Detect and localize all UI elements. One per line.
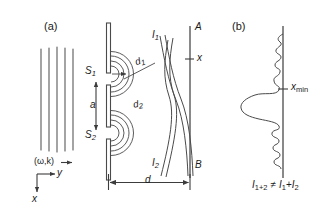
barrier-segment-middle	[107, 85, 111, 127]
caption-i2-subscript: 2	[295, 183, 299, 192]
screen-point-label: x	[197, 53, 202, 63]
screen-top-label: A	[195, 22, 202, 32]
arc-s2	[111, 125, 119, 141]
ray-i2-label: I2	[152, 158, 159, 168]
slit-s1-letter: S	[85, 65, 92, 76]
physics-figure: (a) (b) (ω,k) y x S1 S2 a d1 d2 I1 I2 A …	[0, 0, 323, 208]
slit-s1-label: S1	[85, 66, 96, 76]
incident-wave-text: (ω,k)	[34, 156, 54, 166]
i2-subscript: 2	[155, 161, 159, 170]
barrier-segment-bottom	[107, 139, 111, 180]
caption-relation: ≠	[271, 179, 277, 190]
slit-s1-subscript: 1	[92, 69, 96, 78]
xmin-label: xmin	[291, 82, 308, 92]
slit-s2-label: S2	[85, 130, 96, 140]
panel-b-tag: (b)	[232, 21, 245, 32]
x-axis-label: x	[32, 194, 37, 204]
ray-path-i1	[161, 38, 177, 177]
ray-i1-label: I1	[152, 30, 159, 40]
diffracted-wavefronts-s2	[111, 111, 134, 156]
slit-s2-letter: S	[85, 129, 92, 140]
coordinate-axes	[37, 174, 55, 192]
xmin-subscript: min	[296, 85, 308, 94]
caption-i1-subscript: 1	[282, 183, 286, 192]
intensity-curve	[241, 34, 283, 169]
distance-d-label: d	[145, 175, 151, 185]
i1-subscript: 1	[155, 33, 159, 42]
caption-i12-subscript: 1+2	[255, 183, 268, 192]
panel-a-tag: (a)	[44, 21, 57, 32]
incident-wave-label: (ω,k)	[34, 157, 54, 166]
screen-bottom-label: B	[195, 160, 202, 170]
intensity-inequality-caption: I1+2≠I1+I2	[252, 180, 299, 190]
incident-wavefronts	[41, 47, 73, 152]
slit-barrier	[107, 23, 111, 180]
y-axis-label: y	[57, 168, 62, 178]
ray-i2-edge-b	[165, 35, 193, 176]
slit-separation-label: a	[90, 100, 96, 110]
arc-s2	[111, 120, 124, 146]
slit-s2-subscript: 2	[92, 133, 96, 142]
diffracted-d2-label: d2	[132, 98, 143, 109]
barrier-segment-top	[107, 23, 111, 73]
arc-s2	[111, 111, 134, 156]
